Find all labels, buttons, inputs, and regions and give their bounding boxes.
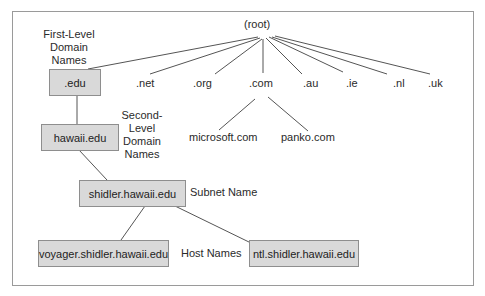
host-names-caption: Host Names (181, 247, 242, 259)
tld-com: .com (249, 77, 273, 89)
subnet-caption: Subnet Name (190, 186, 257, 198)
tld-uk: .uk (428, 77, 443, 89)
shidler-node: shidler.hawaii.edu (79, 180, 186, 207)
panko-com-label: panko.com (281, 131, 335, 143)
second-level-caption: Second-Level Domain Names (110, 109, 174, 161)
tld-ie: .ie (346, 77, 358, 89)
tld-nl: .nl (393, 77, 405, 89)
voyager-host-node: voyager.shidler.hawaii.edu (38, 240, 169, 267)
root-label: (root) (244, 18, 270, 30)
hawaii-edu-node: hawaii.edu (41, 124, 119, 151)
microsoft-com-label: microsoft.com (189, 131, 257, 143)
ntl-host-node: ntl.shidler.hawaii.edu (249, 240, 359, 267)
tld-au: .au (303, 77, 318, 89)
tld-net: .net (136, 77, 154, 89)
edu-node: .edu (49, 69, 101, 96)
tld-org: .org (193, 77, 212, 89)
first-level-caption: First-Level Domain Names (38, 28, 100, 67)
